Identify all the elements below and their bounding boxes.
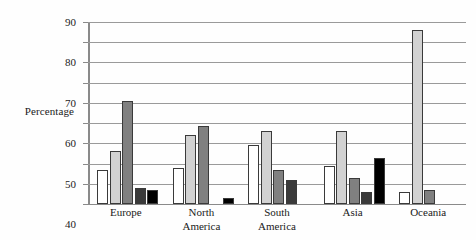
x-axis-label-line: Europe xyxy=(88,206,164,220)
x-axis-label: Europe xyxy=(88,206,164,220)
x-axis-label-line: America xyxy=(239,220,315,234)
x-axis-label-line: Oceania xyxy=(390,206,466,220)
bar xyxy=(147,190,158,204)
x-axis-category-labels: EuropeNorthAmericaSouthAmericaAsiaOceani… xyxy=(88,206,466,240)
bar xyxy=(374,158,385,205)
x-axis-label-line: North xyxy=(164,206,240,220)
bar-group xyxy=(324,22,385,204)
y-tick-0: 0 xyxy=(83,204,89,205)
x-axis-label-line: America xyxy=(164,220,240,234)
bar xyxy=(424,190,435,204)
bar xyxy=(110,151,121,204)
x-axis-label: NorthAmerica xyxy=(164,206,240,233)
bar xyxy=(399,192,410,204)
bar-group xyxy=(97,22,158,204)
x-axis-label: Oceania xyxy=(390,206,466,220)
bar xyxy=(349,178,360,204)
x-axis-label-line: South xyxy=(239,206,315,220)
plot-area: 0102030405060708090 xyxy=(88,22,466,204)
bar-chart-figure: Percentage 0102030405060708090 EuropeNor… xyxy=(0,0,476,240)
bar xyxy=(261,131,272,204)
bar-group xyxy=(173,22,234,204)
bar xyxy=(248,145,259,204)
bar xyxy=(122,101,133,204)
bar xyxy=(412,30,423,204)
y-tick-label-40: 40 xyxy=(65,219,76,230)
bar xyxy=(324,166,335,204)
y-tick-label-80: 80 xyxy=(65,57,76,68)
bar-group xyxy=(248,22,309,204)
bar xyxy=(185,135,196,204)
bar-groups xyxy=(88,22,466,204)
bar-group xyxy=(399,22,460,204)
y-axis-label: Percentage xyxy=(6,105,74,117)
bar xyxy=(273,170,284,204)
bar xyxy=(286,180,297,204)
bar xyxy=(198,126,209,204)
bar xyxy=(336,131,347,204)
bar xyxy=(361,192,372,204)
x-axis-label: SouthAmerica xyxy=(239,206,315,233)
x-axis-label-line: Asia xyxy=(315,206,391,220)
bar xyxy=(97,170,108,204)
y-tick-label-50: 50 xyxy=(65,178,76,189)
bar xyxy=(173,168,184,204)
bar xyxy=(135,188,146,204)
y-tick-label-60: 60 xyxy=(65,138,76,149)
x-axis-label: Asia xyxy=(315,206,391,220)
y-tick-label-70: 70 xyxy=(65,97,76,108)
y-tick-label-90: 90 xyxy=(65,17,76,28)
bar xyxy=(223,198,234,204)
